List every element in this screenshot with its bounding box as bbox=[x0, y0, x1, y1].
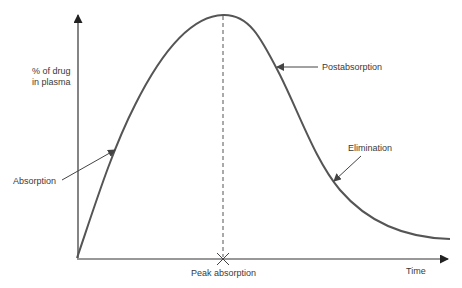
y-axis-label-line2: in plasma bbox=[32, 77, 71, 88]
x-axis-label: Time bbox=[406, 266, 426, 277]
diagram-canvas bbox=[0, 0, 462, 288]
elimination-label: Elimination bbox=[348, 143, 392, 154]
y-axis-label-line1: % of drug bbox=[32, 66, 71, 77]
postabsorption-label: Postabsorption bbox=[322, 62, 382, 73]
absorption-label: Absorption bbox=[13, 176, 56, 187]
concentration-curve bbox=[77, 15, 450, 258]
y-axis-label: % of drug in plasma bbox=[32, 66, 71, 88]
peak-absorption-label: Peak absorption bbox=[191, 268, 256, 279]
absorption-arrow bbox=[62, 150, 115, 180]
pharmacokinetic-diagram: % of drug in plasma Absorption Postabsor… bbox=[0, 0, 462, 288]
elimination-arrow bbox=[334, 156, 361, 181]
